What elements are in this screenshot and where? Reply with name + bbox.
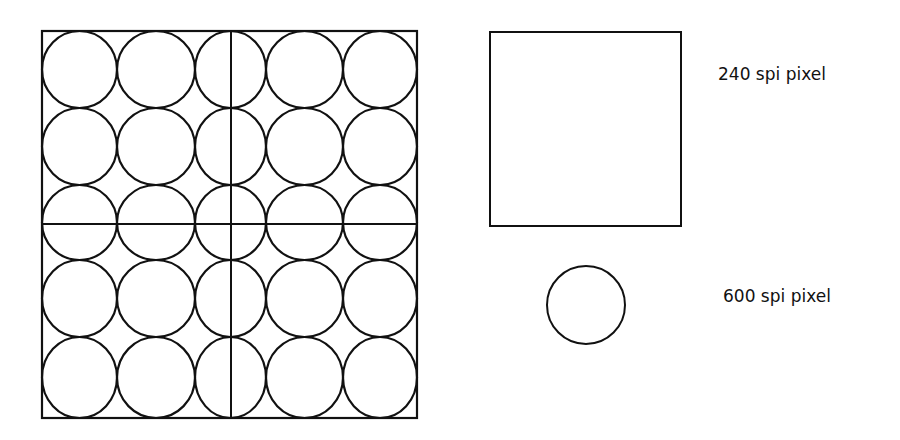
dot-circle [42, 260, 117, 337]
dot-circle [117, 260, 195, 337]
dot-circle [117, 185, 195, 260]
dot-circle [117, 337, 195, 418]
dot-circle [117, 31, 195, 108]
dot-circle [266, 337, 343, 418]
dot-circle [343, 31, 417, 108]
small-pixel-circle [547, 266, 625, 344]
dot-circle [117, 108, 195, 185]
dot-circle [42, 337, 117, 418]
dot-circle [266, 108, 343, 185]
dot-circle [42, 31, 117, 108]
label-600-spi-pixel: 600 spi pixel [723, 286, 831, 306]
dot-circle [343, 260, 417, 337]
dot-circle [42, 108, 117, 185]
dot-circle [266, 31, 343, 108]
dot-circle [343, 337, 417, 418]
label-240-spi-pixel: 240 spi pixel [718, 64, 826, 84]
diagram-stage: 240 spi pixel 600 spi pixel [0, 0, 900, 440]
dot-circle [266, 260, 343, 337]
dot-circle [343, 185, 417, 260]
dot-circle [266, 185, 343, 260]
dot-circle [42, 185, 117, 260]
dot-circle [343, 108, 417, 185]
large-pixel-square [490, 32, 681, 226]
